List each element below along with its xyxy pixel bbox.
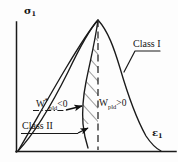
- stress-strain-diagram: σ1 ε1 Class I Class II W*pld<0 Wpld>0: [0, 0, 178, 162]
- w-negative-leader-line: [66, 106, 82, 110]
- work-negative-star: *: [44, 97, 48, 106]
- class-ii-curve: [18, 20, 98, 151]
- work-negative-subscript: pld: [49, 104, 57, 111]
- class-i-label: Class I: [133, 39, 161, 49]
- work-positive-symbol: W: [99, 98, 108, 108]
- class-i-leader-line: [124, 51, 160, 72]
- work-negative-label: W*pld<0: [36, 97, 67, 110]
- work-negative-relation: <0: [57, 99, 67, 109]
- work-positive-subscript: pld: [108, 103, 116, 110]
- y-axis-subscript: 1: [31, 10, 36, 18]
- x-axis-label: ε1: [152, 128, 163, 138]
- x-axis-subscript: 1: [158, 132, 163, 140]
- class-ii-label: Class II: [22, 121, 53, 131]
- work-positive-label: Wpld>0: [99, 99, 126, 109]
- work-positive-relation: >0: [116, 98, 126, 108]
- y-axis-label: σ1: [24, 6, 36, 16]
